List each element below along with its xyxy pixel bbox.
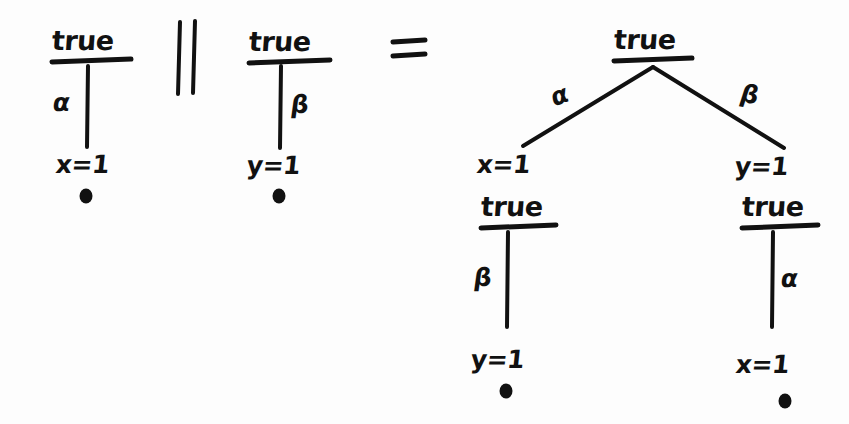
edge-left-sub-beta — [507, 232, 508, 327]
equals-stroke-top — [393, 40, 425, 42]
underline-root-true — [614, 58, 692, 61]
result-branch-0-child-edge-label: β — [472, 265, 493, 290]
edge-right-sub-alpha — [772, 232, 773, 327]
result-branch-1-node-label: y=1 — [734, 154, 790, 179]
result-branch-0-leaf-label: y=1 — [470, 347, 526, 372]
right-operand-root-label: true — [248, 28, 312, 55]
terminal-dot-left-operand — [80, 189, 93, 204]
right-operand-leaf-label: y=1 — [246, 153, 302, 178]
underline-left-sub-true — [481, 225, 556, 228]
terminal-dot-right-operand — [273, 189, 286, 204]
left-operand-edge-label: α — [51, 90, 72, 115]
branch-alpha — [523, 67, 653, 146]
terminal-dot-left-subtree — [500, 384, 513, 399]
right-operand-edge-label: β — [289, 92, 310, 117]
result-branch-0-state-label: true — [480, 193, 544, 220]
result-branch-1-state-label: true — [741, 193, 805, 220]
result-branch-1-leaf-label: x=1 — [735, 352, 791, 377]
edge-left-alpha — [87, 66, 88, 147]
left-operand-root-label: true — [51, 27, 115, 54]
parallel-bar-1 — [178, 22, 180, 94]
result-branch-0-node-label: x=1 — [476, 152, 532, 177]
diagram-canvas: true α x=1 true β y=1 true α β x=1 true … — [0, 0, 849, 424]
branch-beta — [653, 67, 784, 148]
underline-left-true — [52, 59, 131, 62]
edge-right-beta — [280, 66, 281, 148]
parallel-bar-2 — [193, 21, 195, 93]
result-root-label: true — [613, 26, 677, 53]
terminal-dot-right-subtree — [779, 394, 792, 409]
equals-stroke-bottom — [393, 54, 425, 56]
result-branch-1-child-edge-label: α — [779, 266, 800, 291]
underline-right-true — [249, 60, 330, 63]
left-operand-leaf-label: x=1 — [55, 152, 111, 177]
ink-layer — [0, 0, 849, 424]
underline-right-sub-true — [742, 225, 818, 228]
